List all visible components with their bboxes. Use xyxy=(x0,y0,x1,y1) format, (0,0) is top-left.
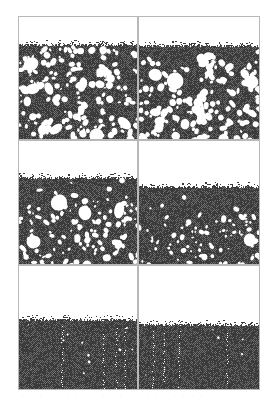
panel-c xyxy=(18,140,138,265)
panel-b xyxy=(138,16,260,140)
deposition-texture-d xyxy=(139,141,260,265)
panel-a xyxy=(18,16,138,140)
figure: · · · · · · · · · · · · · · · · · · · · … xyxy=(0,0,272,405)
panel-d xyxy=(138,140,260,265)
panel-f xyxy=(138,265,260,390)
deposition-texture-f xyxy=(139,266,260,390)
figure-caption: · · · · · · · · · · · · · · · · · · · · … xyxy=(22,392,258,399)
deposition-texture-c xyxy=(19,141,138,265)
deposition-texture-e xyxy=(19,266,138,390)
deposition-texture-b xyxy=(139,17,260,140)
deposition-texture-a xyxy=(19,17,138,140)
panel-e xyxy=(18,265,138,390)
